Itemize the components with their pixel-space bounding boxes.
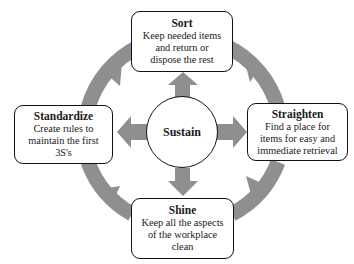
arrow-up-icon bbox=[168, 72, 198, 98]
arrow-down-icon bbox=[168, 168, 198, 196]
arrow-left-icon bbox=[117, 116, 148, 148]
step-title: Sort bbox=[135, 17, 229, 30]
center-circle-sustain: Sustain bbox=[146, 96, 218, 168]
step-desc-line: immediate retrieval bbox=[251, 145, 344, 157]
step-desc-line: Keep needed items bbox=[135, 30, 229, 42]
step-desc-line: of the workplace bbox=[135, 229, 230, 241]
step-box-straighten: Straighten Find a place for items for ea… bbox=[247, 103, 348, 161]
step-desc-line: clean bbox=[135, 241, 230, 253]
step-title: Shine bbox=[135, 204, 230, 217]
arrow-right-icon bbox=[216, 116, 247, 148]
step-desc-line: and return or bbox=[135, 42, 229, 54]
step-desc-line: 3S's bbox=[18, 147, 109, 159]
step-desc-line: items for easy and bbox=[251, 133, 344, 145]
step-box-sort: Sort Keep needed items and return or dis… bbox=[131, 11, 233, 72]
step-title: Standardize bbox=[18, 110, 109, 123]
step-desc-line: Create rules to bbox=[18, 123, 109, 135]
step-desc-line: Find a place for bbox=[251, 121, 344, 133]
step-desc-line: Keep all the aspects bbox=[135, 217, 230, 229]
step-desc-line: dispose the rest bbox=[135, 54, 229, 66]
step-title: Straighten bbox=[251, 108, 344, 121]
step-desc-line: maintain the first bbox=[18, 135, 109, 147]
center-label: Sustain bbox=[163, 125, 201, 140]
step-box-standardize: Standardize Create rules to maintain the… bbox=[14, 105, 113, 164]
step-box-shine: Shine Keep all the aspects of the workpl… bbox=[131, 198, 234, 259]
five-s-diagram: Sort Keep needed items and return or dis… bbox=[0, 0, 354, 264]
